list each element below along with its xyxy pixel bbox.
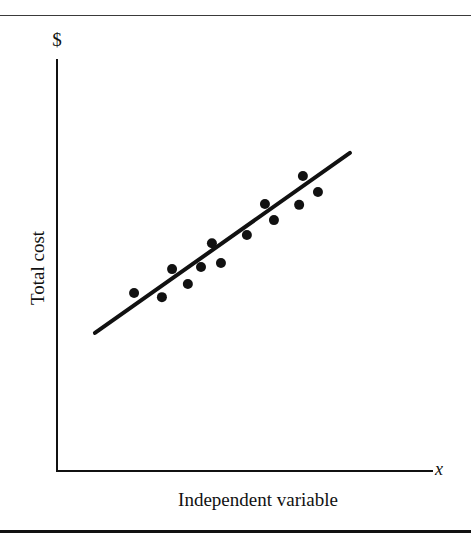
regression-line bbox=[95, 153, 350, 333]
data-point bbox=[313, 187, 323, 197]
data-point bbox=[157, 292, 167, 302]
data-point bbox=[167, 264, 177, 274]
data-point bbox=[269, 215, 279, 225]
data-point bbox=[183, 279, 193, 289]
data-point bbox=[242, 230, 252, 240]
scatter-plot bbox=[0, 0, 471, 546]
data-point bbox=[216, 258, 226, 268]
bottom-rule bbox=[0, 530, 471, 533]
data-point bbox=[298, 171, 308, 181]
data-point bbox=[196, 262, 206, 272]
data-point bbox=[294, 200, 304, 210]
y-axis-label: Total cost bbox=[28, 231, 47, 305]
data-point bbox=[260, 199, 270, 209]
x-axis-label: Independent variable bbox=[178, 490, 338, 509]
data-point bbox=[129, 288, 139, 298]
data-point bbox=[207, 238, 217, 248]
